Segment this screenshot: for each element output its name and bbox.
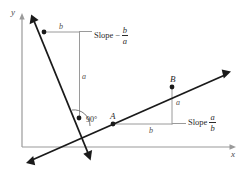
y-axis-label: y [11, 8, 15, 17]
steep-slope-sign: − [115, 31, 120, 40]
steep-lower-point [77, 116, 82, 121]
shallow-slope-fraction: a b [209, 113, 215, 132]
shallow-line-arrow-right [222, 69, 231, 78]
y-axis-arrowhead [19, 13, 24, 20]
right-angle-label: 90° [86, 116, 97, 124]
steep-upper-point [42, 30, 47, 35]
point-b-label: B [170, 75, 176, 84]
x-axis-label: x [231, 150, 235, 159]
point-a-label: A [110, 112, 116, 121]
shallow-slope-word: Slope [188, 118, 207, 127]
steep-slope-annotation: Slope − b a [94, 26, 128, 45]
shallow-slope-denominator: b [209, 124, 215, 133]
point-a-marker [111, 122, 116, 127]
shallow-slope-numerator: a [209, 113, 215, 122]
shallow-line-arrow-left [26, 156, 35, 165]
shallow-run-label: b [149, 127, 153, 135]
steep-rise-label: a [82, 73, 86, 81]
steep-slope-denominator: a [122, 37, 128, 46]
steep-run-label: b [59, 23, 63, 31]
steep-slope-numerator: b [122, 26, 128, 35]
shallow-slope-annotation: Slope a b [188, 113, 216, 132]
shallow-rise-label: a [176, 99, 180, 107]
point-b-marker [170, 85, 175, 90]
steep-slope-fraction: b a [122, 26, 128, 45]
slope-diagram-figure: y x b a Slope − b a 90° A B a b Slope a … [0, 0, 243, 171]
steep-slope-word: Slope [94, 31, 113, 40]
